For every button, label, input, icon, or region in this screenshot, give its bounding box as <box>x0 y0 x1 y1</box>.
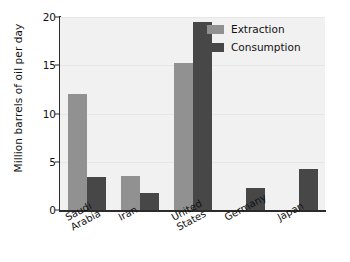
bar-extraction-saudi-arabia[interactable] <box>68 94 87 210</box>
legend-label-consumption: Consumption <box>231 41 301 53</box>
gridline <box>60 17 325 18</box>
legend-swatch-consumption <box>207 43 224 52</box>
bar-extraction-united-states[interactable] <box>174 63 193 210</box>
legend-label-extraction: Extraction <box>231 23 285 35</box>
legend-item-consumption[interactable]: Consumption <box>207 40 301 54</box>
y-axis-ticks: 05101520 <box>28 0 56 262</box>
bar-chart: Million barrels of oil per day 05101520 … <box>0 0 350 262</box>
y-tick-label: 15 <box>30 59 56 71</box>
y-tick-label: 5 <box>30 156 56 168</box>
y-tick-label: 10 <box>30 108 56 120</box>
bar-consumption-iran[interactable] <box>140 193 159 210</box>
legend: Extraction Consumption <box>207 22 301 54</box>
y-tick-label: 0 <box>30 204 56 216</box>
legend-swatch-extraction <box>207 25 224 34</box>
y-tick-label: 20 <box>30 11 56 23</box>
legend-item-extraction[interactable]: Extraction <box>207 22 301 36</box>
